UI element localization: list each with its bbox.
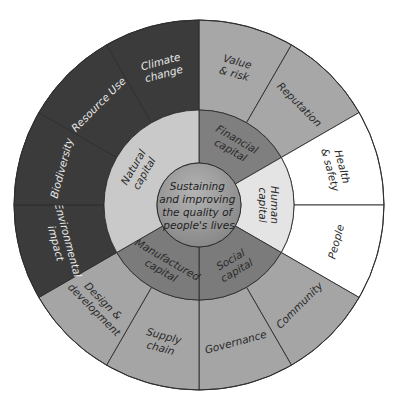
- capital-label-human-line-2: capital: [257, 187, 269, 222]
- sustainability-wheel-diagram: Value& riskReputationHealth& safetyPeopl…: [0, 0, 395, 408]
- center-line-2: and improving: [159, 193, 235, 205]
- capital-label-human: Humancapital: [257, 186, 282, 224]
- center-circle: Sustaining and improving the quality of …: [157, 163, 241, 247]
- center-line-3: the quality of: [162, 206, 234, 218]
- capital-label-human-line-1: Human: [269, 186, 281, 224]
- center-line-4: people's lives: [162, 219, 235, 231]
- center-line-1: Sustaining: [170, 180, 225, 192]
- center-statement: Sustaining and improving the quality of …: [159, 180, 238, 231]
